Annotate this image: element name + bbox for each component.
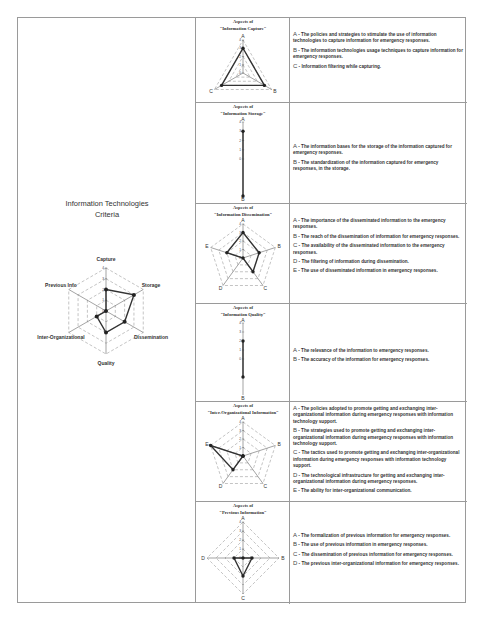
storage-descriptions: A - The information bases for the storag… — [293, 143, 463, 175]
aspect-text: - The policies and strategies to stimula… — [293, 32, 437, 43]
storage-chart-cell: Aspects of"Information Storage" AB01234 — [196, 103, 290, 203]
dissemination-radar-chart: ABCDE01234 — [196, 216, 290, 302]
svg-text:D: D — [219, 285, 223, 291]
previous-descriptions: A - The formalization of previous inform… — [293, 532, 463, 570]
row-quality: Aspects of"Information Quality" AB01234 … — [196, 304, 467, 402]
figure-table: Information Technologies Criteria Captur… — [17, 17, 466, 603]
svg-text:Quality: Quality — [98, 360, 115, 366]
aspect-description-a: A - The importance of the disseminated i… — [293, 217, 463, 231]
inter-organizational-radar-chart: ABCDE01234 — [196, 414, 290, 500]
svg-text:1: 1 — [102, 298, 104, 302]
aspect-text: - The accuracy of the information for em… — [297, 357, 429, 362]
aspect-description-e: E - The ability for inter-organizational… — [293, 487, 463, 494]
title-line-2: Criteria — [18, 209, 196, 220]
svg-text:Previous Info: Previous Info — [45, 282, 77, 288]
row-previous: Aspects of"Previous Information" ABCD012… — [196, 502, 467, 604]
svg-text:C: C — [264, 483, 268, 489]
aspect-description-b: B - The use of previous information in e… — [293, 541, 463, 548]
capture-descriptions: A - The policies and strategies to stimu… — [293, 31, 463, 72]
aspect-description-a: A - The policies adopted to promote gett… — [293, 405, 463, 425]
svg-text:4: 4 — [239, 222, 241, 226]
svg-text:4: 4 — [239, 38, 241, 42]
svg-text:1: 1 — [239, 348, 241, 352]
aspect-text: - The formalization of previous informat… — [297, 533, 450, 538]
svg-text:0: 0 — [239, 71, 241, 75]
svg-text:B: B — [241, 395, 245, 401]
svg-text:B: B — [277, 441, 281, 447]
aspect-text: - The ability for inter-organizational c… — [297, 488, 412, 493]
svg-text:3: 3 — [239, 429, 241, 433]
aspect-description-d: D - The filtering of information during … — [293, 258, 463, 265]
aspect-text: - The relevance of the information to em… — [297, 348, 429, 353]
inter-organizational-descriptions: A - The policies adopted to promote gett… — [293, 405, 463, 497]
aspect-description-c: C - The tactics used to promote getting … — [293, 449, 463, 469]
aspect-description-e: E - The use of disseminated information … — [293, 267, 463, 274]
svg-text:B: B — [277, 243, 281, 249]
svg-text:2: 2 — [239, 339, 241, 343]
svg-text:2: 2 — [239, 139, 241, 143]
aspect-text: - The information bases for the storage … — [293, 144, 452, 155]
svg-text:1: 1 — [239, 63, 241, 67]
svg-text:4: 4 — [239, 321, 241, 325]
svg-text:C: C — [264, 285, 268, 291]
dissemination-descriptions: A - The importance of the disseminated i… — [293, 217, 463, 277]
main-chart-title: Information Technologies Criteria — [18, 198, 196, 220]
previous-radar-chart: ABCD01234 — [196, 514, 290, 602]
main-criteria-cell: Information Technologies Criteria Captur… — [18, 18, 196, 602]
aspect-text: - The importance of the disseminated inf… — [293, 218, 446, 229]
capture-radar-chart: ABC01234 — [196, 30, 290, 102]
aspect-text: - The reach of the dissemination of info… — [297, 234, 459, 239]
aspect-text: - Information filtering while capturing. — [297, 64, 381, 69]
svg-text:1: 1 — [239, 547, 241, 551]
svg-text:3: 3 — [239, 129, 241, 133]
svg-text:D: D — [219, 483, 223, 489]
aspect-description-d: D - The previous inter-organizational in… — [293, 560, 463, 567]
capture-chart-cell: Aspects of"Information Capture" ABC01234 — [196, 18, 290, 102]
aspect-text: - The use of previous information in eme… — [297, 542, 427, 547]
svg-text:4: 4 — [239, 120, 241, 124]
aspect-text: - The policies adopted to promote gettin… — [293, 406, 453, 424]
svg-text:1: 1 — [239, 248, 241, 252]
svg-text:1: 1 — [239, 148, 241, 152]
aspect-description-c: C - The availability of the disseminated… — [293, 242, 463, 256]
svg-text:E: E — [205, 243, 209, 249]
storage-radar-chart: AB01234 — [196, 115, 290, 203]
aspect-description-b: B - The accuracy of the information for … — [293, 356, 463, 363]
svg-text:A: A — [241, 217, 245, 223]
svg-text:A: A — [241, 116, 245, 122]
svg-text:0: 0 — [239, 157, 241, 161]
svg-text:D: D — [201, 555, 205, 561]
svg-text:B: B — [273, 88, 277, 94]
aspect-description-c: C - Information filtering while capturin… — [293, 63, 463, 70]
svg-text:A: A — [241, 515, 245, 521]
svg-text:Storage: Storage — [142, 282, 161, 288]
row-capture: Aspects of"Information Capture" ABC01234… — [196, 18, 467, 103]
row-dissemination: Aspects of"Information Dissemination" AB… — [196, 204, 467, 304]
aspect-text: - The previous inter-organizational info… — [297, 561, 459, 566]
svg-text:Dissemination: Dissemination — [134, 334, 168, 340]
quality-radar-chart: AB01234 — [196, 316, 290, 402]
row-inter-organizational: Aspects of"Inter-Organizational Informat… — [196, 402, 467, 502]
aspect-text: - The strategies used to promote getting… — [293, 428, 453, 446]
aspect-description-c: C - The dissemination of previous inform… — [293, 551, 463, 558]
aspect-description-b: B - The reach of the dissemination of in… — [293, 233, 463, 240]
aspect-description-b: B - The information technologies usage t… — [293, 47, 463, 61]
aspect-text: - The availability of the disseminated i… — [293, 243, 445, 254]
svg-text:C: C — [241, 595, 245, 601]
aspect-text: - The tactics used to promote getting an… — [293, 450, 459, 468]
svg-text:2: 2 — [239, 538, 241, 542]
svg-text:3: 3 — [239, 529, 241, 533]
svg-text:A: A — [241, 317, 245, 323]
aspect-text: - The technological infrastructure for g… — [293, 473, 445, 484]
svg-text:2: 2 — [239, 239, 241, 243]
aspect-description-b: B - The standardization of the informati… — [293, 159, 463, 173]
inter-organizational-chart-cell: Aspects of"Inter-Organizational Informat… — [196, 402, 290, 501]
quality-chart-cell: Aspects of"Information Quality" AB01234 — [196, 304, 290, 401]
svg-text:Inter-Organizational: Inter-Organizational — [37, 334, 85, 340]
svg-text:1: 1 — [239, 446, 241, 450]
title-line-1: Information Technologies — [18, 198, 196, 209]
svg-text:3: 3 — [239, 330, 241, 334]
svg-text:3: 3 — [239, 46, 241, 50]
svg-text:A: A — [241, 33, 245, 39]
quality-descriptions: A - The relevance of the information to … — [293, 347, 463, 366]
